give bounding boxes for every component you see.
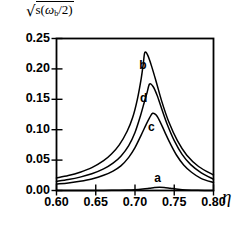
- curve-d: [57, 84, 214, 182]
- data-curves: [57, 52, 214, 191]
- curve-b: [57, 52, 214, 178]
- axes-frame: [57, 39, 214, 191]
- chart-figure: √s(ωb/2) 0.000.050.100.150.200.25 0.600.…: [0, 0, 251, 227]
- plot-area: [0, 0, 251, 227]
- curve-c: [57, 113, 214, 184]
